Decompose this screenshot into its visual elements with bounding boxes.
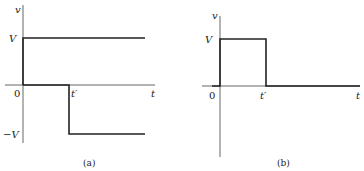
step-time-label-a: t′ [71,88,78,99]
x-axis-label-a: t [151,88,156,99]
low-level-label-a: −V [3,129,20,140]
y-axis-label-b: v [212,10,218,21]
origin-label-a: 0 [14,88,20,99]
panel-b: v V 0 t′ t (b) [202,10,361,168]
waveform-a-lower [23,85,145,134]
waveform-b [212,39,360,86]
origin-label-b: 0 [209,90,215,101]
x-axis-label-b: t [356,90,361,101]
y-axis-label-a: v [15,4,21,15]
caption-b: (b) [277,158,290,168]
panel-a: v V 0 t′ t −V (a) [3,4,156,168]
caption-a: (a) [83,158,95,168]
waveform-diagram: v V 0 t′ t −V (a) v V 0 t′ t (b) [0,0,364,171]
waveform-a [23,38,145,85]
high-level-label-a: V [9,33,18,44]
step-time-label-b: t′ [260,90,267,101]
high-level-label-b: V [205,34,214,45]
